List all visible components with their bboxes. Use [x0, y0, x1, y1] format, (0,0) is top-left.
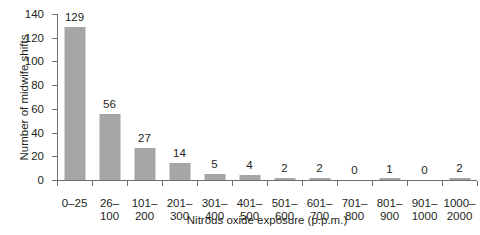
x-axis-tick: [162, 181, 163, 186]
y-axis-tick-label: 20: [31, 148, 44, 164]
bar: [204, 174, 225, 180]
y-axis-tick-label: 0: [38, 172, 44, 188]
y-axis-tick-label: 40: [31, 125, 44, 141]
y-axis-tick-label: 60: [31, 101, 44, 117]
bar-chart: Number of midwife shifts 020406080100120…: [0, 0, 480, 235]
x-axis-tick: [337, 181, 338, 186]
x-axis-tick: [57, 181, 58, 186]
y-axis-tick-label: 140: [25, 6, 44, 22]
bar: [379, 178, 400, 180]
bar-value-label: 0: [351, 163, 357, 177]
x-axis-title: Nitrous oxide exposure (p.p.m.): [57, 213, 477, 227]
bar-value-label: 2: [456, 161, 462, 175]
bar-group: 4: [232, 14, 267, 180]
bar-group: 14: [162, 14, 197, 180]
bar-group: 56: [92, 14, 127, 180]
bar-value-label: 14: [173, 146, 186, 160]
x-axis-tick: [372, 181, 373, 186]
x-axis-tick: [442, 181, 443, 186]
bar: [99, 114, 120, 180]
bar-group: 5: [197, 14, 232, 180]
x-axis-tick: [477, 181, 478, 186]
bar-value-label: 5: [211, 157, 217, 171]
x-axis-tick: [407, 181, 408, 186]
bar: [64, 27, 85, 180]
bar-group: 0: [337, 14, 372, 180]
x-axis-tick: [302, 181, 303, 186]
y-axis-tick-label: 80: [31, 77, 44, 93]
bar: [274, 178, 295, 180]
bar-group: 27: [127, 14, 162, 180]
y-axis-tick-label: 120: [25, 30, 44, 46]
bar-value-label: 4: [246, 158, 252, 172]
bar: [449, 178, 470, 180]
x-axis-tick: [232, 181, 233, 186]
bar-group: 1: [372, 14, 407, 180]
bar-value-label: 0: [421, 163, 427, 177]
bar: [169, 163, 190, 180]
bar-group: 2: [267, 14, 302, 180]
plot-area: 020406080100120140 12956271454220102 0–2…: [57, 14, 477, 180]
x-axis-tick: [267, 181, 268, 186]
bar-value-label: 56: [103, 97, 116, 111]
x-axis-category-label: 0–25: [57, 197, 92, 210]
bar-group: 2: [442, 14, 477, 180]
y-axis-tick-label: 100: [25, 53, 44, 69]
bar-value-label: 27: [138, 131, 151, 145]
bar: [309, 178, 330, 180]
bar: [239, 175, 260, 180]
x-axis-tick: [197, 181, 198, 186]
bar-value-label: 2: [316, 161, 322, 175]
bar-value-label: 2: [281, 161, 287, 175]
bar-group: 2: [302, 14, 337, 180]
x-axis-tick: [92, 181, 93, 186]
x-axis-tick: [127, 181, 128, 186]
bar-value-label: 1: [386, 162, 392, 176]
bar: [134, 148, 155, 180]
bar-group: 129: [57, 14, 92, 180]
bar-value-label: 129: [65, 10, 84, 24]
bar-group: 0: [407, 14, 442, 180]
